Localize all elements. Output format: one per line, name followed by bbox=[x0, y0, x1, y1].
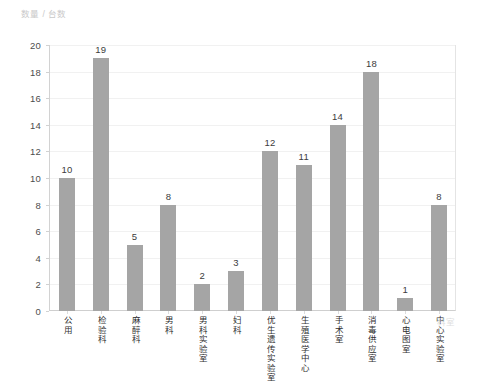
x-tick-label-text: 妇科 bbox=[231, 316, 241, 335]
bar-value-label: 1 bbox=[402, 284, 407, 295]
bar-value-label: 3 bbox=[233, 257, 238, 268]
x-tick-mark bbox=[202, 311, 203, 314]
bar-chart: 数量 / 台数 02468101214161820 10195823121114… bbox=[0, 0, 484, 392]
y-tick-label: 6 bbox=[11, 226, 41, 237]
bar-group[interactable]: 2 bbox=[185, 45, 219, 311]
x-tick-label-text: 优生遗传实验室 bbox=[265, 316, 275, 383]
bar[interactable] bbox=[160, 205, 176, 311]
bar-value-label: 10 bbox=[61, 164, 72, 175]
bar-group[interactable]: 8 bbox=[422, 45, 456, 311]
bar[interactable] bbox=[93, 58, 109, 311]
y-tick-label: 16 bbox=[11, 93, 41, 104]
x-tick-mark bbox=[236, 311, 237, 314]
y-tick-mark bbox=[46, 205, 49, 206]
x-tick-label-text: 公用 bbox=[62, 316, 72, 335]
bar-group[interactable]: 3 bbox=[219, 45, 253, 311]
y-tick-label: 12 bbox=[11, 146, 41, 157]
bar-group[interactable]: 19 bbox=[84, 45, 118, 311]
x-tick-mark bbox=[405, 311, 406, 314]
bar-group[interactable]: 14 bbox=[321, 45, 355, 311]
x-tick-label-text: 男科实验室 bbox=[197, 316, 207, 364]
x-tick-label-text: 男科 bbox=[163, 316, 173, 335]
bar[interactable] bbox=[194, 284, 210, 311]
y-tick-label: 20 bbox=[11, 40, 41, 51]
bar-value-label: 18 bbox=[366, 58, 377, 69]
x-tick-label-text: 检验科 bbox=[96, 316, 106, 345]
x-tick-mark bbox=[304, 311, 305, 314]
x-tick-label-text: 手术室 bbox=[333, 316, 343, 345]
x-tick-mark bbox=[371, 311, 372, 314]
bar-value-label: 5 bbox=[132, 231, 137, 242]
y-tick-mark bbox=[46, 125, 49, 126]
bars-layer: 101958231211141818 bbox=[50, 45, 456, 311]
y-tick-mark bbox=[46, 284, 49, 285]
bar-value-label: 19 bbox=[95, 44, 106, 55]
bar-group[interactable]: 11 bbox=[287, 45, 321, 311]
bar-group[interactable]: 18 bbox=[355, 45, 389, 311]
bar-value-label: 8 bbox=[166, 191, 171, 202]
y-axis-title: 数量 / 台数 bbox=[21, 7, 67, 19]
x-tick-mark bbox=[135, 311, 136, 314]
y-tick-label: 18 bbox=[11, 66, 41, 77]
x-tick-mark bbox=[439, 311, 440, 314]
y-tick-mark bbox=[46, 258, 49, 259]
bar-group[interactable]: 8 bbox=[152, 45, 186, 311]
bar-group[interactable]: 1 bbox=[388, 45, 422, 311]
y-tick-mark bbox=[46, 98, 49, 99]
x-tick-mark bbox=[270, 311, 271, 314]
bar-value-label: 2 bbox=[199, 270, 204, 281]
bar[interactable] bbox=[228, 271, 244, 311]
bar[interactable] bbox=[431, 205, 447, 311]
bar-value-label: 12 bbox=[264, 137, 275, 148]
y-tick-mark bbox=[46, 151, 49, 152]
y-tick-label: 2 bbox=[11, 279, 41, 290]
bar-group[interactable]: 12 bbox=[253, 45, 287, 311]
y-tick-label: 4 bbox=[11, 252, 41, 263]
y-tick-mark bbox=[46, 178, 49, 179]
bar-group[interactable]: 5 bbox=[118, 45, 152, 311]
bar[interactable] bbox=[59, 178, 75, 311]
bar-value-label: 11 bbox=[299, 151, 309, 162]
x-tick-mark bbox=[67, 311, 68, 314]
y-tick-mark bbox=[46, 311, 49, 312]
x-axis-labels: 公用检验科麻醉科男科男科实验室妇科优生遗传实验室生殖医学中心手术室消毒供应室心电… bbox=[50, 316, 456, 392]
bar[interactable] bbox=[127, 245, 143, 312]
y-tick-label: 8 bbox=[11, 199, 41, 210]
x-tick-mark bbox=[338, 311, 339, 314]
x-tick-label-text: 麻醉科 bbox=[130, 316, 140, 345]
x-tick-label-text: 心电图室 bbox=[400, 316, 410, 354]
bar-value-label: 14 bbox=[332, 111, 343, 122]
bar[interactable] bbox=[296, 165, 312, 311]
x-axis-title: 科室 bbox=[437, 315, 456, 327]
y-tick-label: 10 bbox=[11, 173, 41, 184]
y-tick-mark bbox=[46, 231, 49, 232]
bar-value-label: 8 bbox=[436, 191, 441, 202]
x-tick-mark bbox=[101, 311, 102, 314]
bar-group[interactable]: 10 bbox=[50, 45, 84, 311]
x-tick-label-text: 生殖医学中心 bbox=[299, 316, 309, 373]
bar[interactable] bbox=[397, 298, 413, 311]
bar[interactable] bbox=[262, 151, 278, 311]
y-tick-mark bbox=[46, 45, 49, 46]
bar[interactable] bbox=[363, 72, 379, 311]
x-tick-label-text: 消毒供应室 bbox=[366, 316, 376, 364]
y-tick-label: 14 bbox=[11, 119, 41, 130]
bar[interactable] bbox=[330, 125, 346, 311]
y-tick-mark bbox=[46, 72, 49, 73]
x-tick-mark bbox=[168, 311, 169, 314]
y-tick-label: 0 bbox=[11, 306, 41, 317]
